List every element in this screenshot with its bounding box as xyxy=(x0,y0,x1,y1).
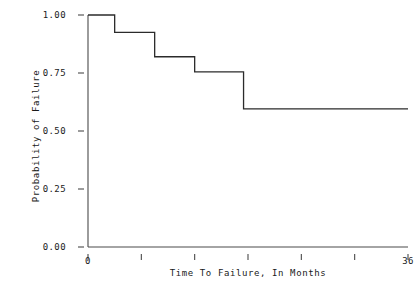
plot-area xyxy=(0,0,420,291)
survival-step-curve xyxy=(88,15,408,109)
x-axis-tick-label: 0 xyxy=(85,256,91,266)
chart-figure: Probability of Failure 0.000.250.500.751… xyxy=(0,0,420,291)
x-axis-tick-label: 36 xyxy=(402,256,414,266)
x-axis-title: Time To Failure, In Months xyxy=(88,268,408,278)
